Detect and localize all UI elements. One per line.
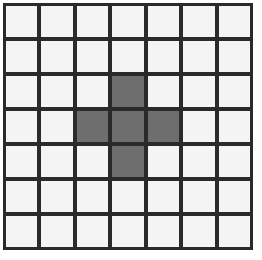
empty-cell (112, 41, 143, 72)
empty-cell (219, 41, 250, 72)
empty-cell (41, 41, 72, 72)
empty-cell (41, 6, 72, 37)
empty-cell (219, 216, 250, 247)
empty-cell (41, 111, 72, 142)
empty-cell (183, 146, 214, 177)
empty-cell (112, 6, 143, 37)
empty-cell (77, 146, 108, 177)
empty-cell (219, 181, 250, 212)
filled-cell (112, 111, 143, 142)
empty-cell (219, 111, 250, 142)
empty-cell (77, 6, 108, 37)
empty-cell (77, 41, 108, 72)
empty-cell (112, 216, 143, 247)
empty-cell (77, 181, 108, 212)
empty-cell (6, 76, 37, 107)
empty-cell (77, 216, 108, 247)
empty-cell (77, 76, 108, 107)
empty-cell (41, 216, 72, 247)
empty-cell (183, 6, 214, 37)
empty-cell (6, 111, 37, 142)
empty-cell (219, 76, 250, 107)
empty-cell (6, 146, 37, 177)
filled-cell (148, 111, 179, 142)
empty-cell (148, 41, 179, 72)
empty-cell (219, 6, 250, 37)
empty-cell (148, 181, 179, 212)
empty-cell (6, 181, 37, 212)
filled-cell (77, 111, 108, 142)
empty-cell (41, 146, 72, 177)
empty-cell (183, 41, 214, 72)
empty-cell (183, 216, 214, 247)
grid-diagram (3, 3, 253, 250)
empty-cell (6, 216, 37, 247)
empty-cell (148, 146, 179, 177)
empty-cell (41, 181, 72, 212)
empty-cell (6, 6, 37, 37)
empty-cell (148, 76, 179, 107)
empty-cell (183, 181, 214, 212)
empty-cell (148, 6, 179, 37)
filled-cell (112, 76, 143, 107)
empty-cell (148, 216, 179, 247)
empty-cell (219, 146, 250, 177)
filled-cell (112, 146, 143, 177)
empty-cell (183, 111, 214, 142)
empty-cell (112, 181, 143, 212)
empty-cell (41, 76, 72, 107)
empty-cell (183, 76, 214, 107)
empty-cell (6, 41, 37, 72)
